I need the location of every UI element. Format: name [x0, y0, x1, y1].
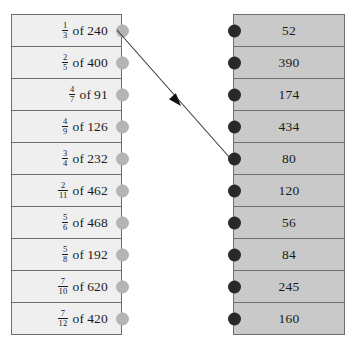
answer-value: 160	[278, 311, 299, 327]
answer-value: 56	[282, 215, 296, 231]
fraction-denominator: 8	[62, 254, 68, 264]
fraction-row[interactable]: 2 5 of 400	[12, 47, 121, 79]
answer-row[interactable]: 80	[234, 143, 344, 175]
fraction-numerator: 7	[60, 277, 66, 286]
fraction-expression: 5 6 of 468	[62, 213, 108, 231]
fraction-denominator: 7	[69, 94, 75, 104]
connector-dot-left[interactable]	[116, 216, 129, 229]
fraction-row[interactable]: 4 9 of 126	[12, 111, 121, 143]
fraction-numerator: 2	[62, 53, 68, 62]
connector-dot-right[interactable]	[228, 88, 241, 101]
operand-value: 240	[87, 23, 108, 39]
answer-row[interactable]: 84	[234, 239, 344, 271]
connector-dot-left[interactable]	[116, 24, 129, 37]
operand-value: 192	[87, 247, 108, 263]
fraction-glyph: 5 6	[62, 213, 68, 231]
operand-value: 400	[87, 55, 108, 71]
fraction-row[interactable]: 5 6 of 468	[12, 207, 121, 239]
fraction-numerator: 4	[62, 117, 68, 126]
answer-row[interactable]: 174	[234, 79, 344, 111]
connector-dot-left[interactable]	[116, 152, 129, 165]
fraction-glyph: 1 3	[62, 21, 68, 39]
connector-dot-left[interactable]	[116, 312, 129, 325]
fraction-row[interactable]: 3 4 of 232	[12, 143, 121, 175]
fraction-denominator: 10	[58, 286, 69, 296]
connector-dot-left[interactable]	[116, 248, 129, 261]
connector-dot-right[interactable]	[228, 280, 241, 293]
connector-dot-right[interactable]	[228, 216, 241, 229]
fraction-denominator: 4	[62, 158, 68, 168]
fraction-glyph: 7 10	[58, 277, 69, 295]
fraction-row[interactable]: 1 3 of 240	[12, 15, 121, 47]
connector-dot-right[interactable]	[228, 248, 241, 261]
answer-choices-column: 52 390 174 434 80 120 56 84	[233, 14, 345, 335]
fraction-row[interactable]: 5 8 of 192	[12, 239, 121, 271]
connector-dot-right[interactable]	[228, 120, 241, 133]
fraction-denominator: 5	[62, 62, 68, 72]
fraction-row[interactable]: 7 12 of 420	[12, 303, 121, 335]
connector-dot-left[interactable]	[116, 120, 129, 133]
fraction-denominator: 11	[58, 190, 69, 200]
connector-dot-left[interactable]	[116, 280, 129, 293]
fraction-expression: 3 4 of 232	[62, 149, 108, 167]
fraction-denominator: 12	[58, 318, 69, 328]
answer-value: 245	[278, 279, 299, 295]
connection-arrowhead	[169, 93, 181, 106]
fraction-expression: 4 9 of 126	[62, 117, 108, 135]
connector-dot-right[interactable]	[228, 24, 241, 37]
fraction-denominator: 3	[62, 30, 68, 40]
answer-row[interactable]: 245	[234, 271, 344, 303]
fraction-row[interactable]: 4 7 of 91	[12, 79, 121, 111]
fraction-expression: 2 11 of 462	[58, 181, 108, 199]
connector-dot-left[interactable]	[116, 88, 129, 101]
answer-row[interactable]: 120	[234, 175, 344, 207]
fraction-expression: 5 8 of 192	[62, 245, 108, 263]
answer-value: 52	[282, 23, 296, 39]
answer-value: 390	[278, 55, 299, 71]
answer-value: 174	[278, 87, 299, 103]
answer-value: 434	[278, 119, 299, 135]
matching-exercise: 1 3 of 240 2 5 of 400 4	[0, 0, 354, 343]
of-label: of	[72, 279, 84, 295]
fraction-glyph: 2 11	[58, 181, 69, 199]
fraction-numerator: 5	[62, 213, 68, 222]
fraction-problems-column: 1 3 of 240 2 5 of 400 4	[11, 14, 122, 335]
fraction-glyph: 4 9	[62, 117, 68, 135]
fraction-expression: 4 7 of 91	[69, 85, 108, 103]
answer-row[interactable]: 434	[234, 111, 344, 143]
fraction-glyph: 2 5	[62, 53, 68, 71]
of-label: of	[72, 183, 84, 199]
fraction-numerator: 7	[60, 309, 66, 318]
connector-dot-right[interactable]	[228, 184, 241, 197]
answer-row[interactable]: 160	[234, 303, 344, 335]
of-label: of	[72, 55, 84, 71]
connector-dot-left[interactable]	[116, 184, 129, 197]
fraction-expression: 2 5 of 400	[62, 53, 108, 71]
connector-dot-right[interactable]	[228, 152, 241, 165]
of-label: of	[72, 151, 84, 167]
fraction-denominator: 6	[62, 222, 68, 232]
answer-value: 80	[282, 151, 296, 167]
answer-value: 120	[278, 183, 299, 199]
fraction-numerator: 2	[60, 181, 66, 190]
answer-row[interactable]: 390	[234, 47, 344, 79]
answer-value: 84	[282, 247, 296, 263]
connector-dot-left[interactable]	[116, 56, 129, 69]
connector-dot-right[interactable]	[228, 312, 241, 325]
answer-row[interactable]: 56	[234, 207, 344, 239]
operand-value: 232	[87, 151, 108, 167]
of-label: of	[79, 87, 91, 103]
operand-value: 91	[94, 87, 108, 103]
connector-dot-right[interactable]	[228, 56, 241, 69]
fraction-glyph: 4 7	[69, 85, 75, 103]
connection-line	[117, 30, 230, 158]
of-label: of	[72, 311, 84, 327]
fraction-row[interactable]: 2 11 of 462	[12, 175, 121, 207]
of-label: of	[72, 247, 84, 263]
answer-row[interactable]: 52	[234, 15, 344, 47]
fraction-row[interactable]: 7 10 of 620	[12, 271, 121, 303]
operand-value: 462	[87, 183, 108, 199]
fraction-expression: 1 3 of 240	[62, 21, 108, 39]
fraction-glyph: 7 12	[58, 309, 69, 327]
fraction-glyph: 3 4	[62, 149, 68, 167]
